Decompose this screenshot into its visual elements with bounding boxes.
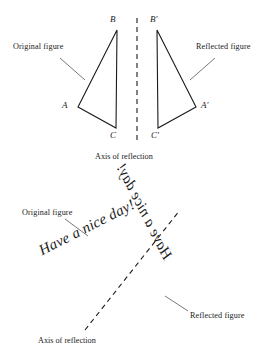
top-panel-graphics bbox=[60, 18, 215, 143]
leader-line-reflected-bottom bbox=[165, 296, 188, 311]
vertex-label-c: C bbox=[110, 130, 116, 140]
axis-of-reflection-caption-bottom: Axis of reflection bbox=[38, 336, 96, 345]
vertex-label-c-prime: C′ bbox=[151, 130, 159, 140]
figure-canvas bbox=[0, 0, 276, 356]
original-figure-label-top: Original figure bbox=[13, 42, 63, 51]
reflected-figure-label-top: Reflected figure bbox=[196, 42, 251, 51]
vertex-label-a: A bbox=[62, 100, 68, 110]
vertex-label-a-prime: A′ bbox=[201, 100, 208, 110]
vertex-label-b-prime: B′ bbox=[150, 14, 157, 24]
original-figure-label-bottom: Original figure bbox=[22, 208, 72, 217]
axis-of-reflection-caption-top: Axis of reflection bbox=[95, 152, 153, 161]
reflected-figure-label-bottom: Reflected figure bbox=[190, 311, 245, 320]
reflection-figure: Original figure Reflected figure Axis of… bbox=[0, 0, 276, 356]
leader-line-original-top bbox=[60, 58, 85, 80]
leader-line-reflected-top bbox=[190, 58, 215, 80]
vertex-label-b: B bbox=[110, 14, 116, 24]
reflected-triangle bbox=[157, 30, 196, 128]
